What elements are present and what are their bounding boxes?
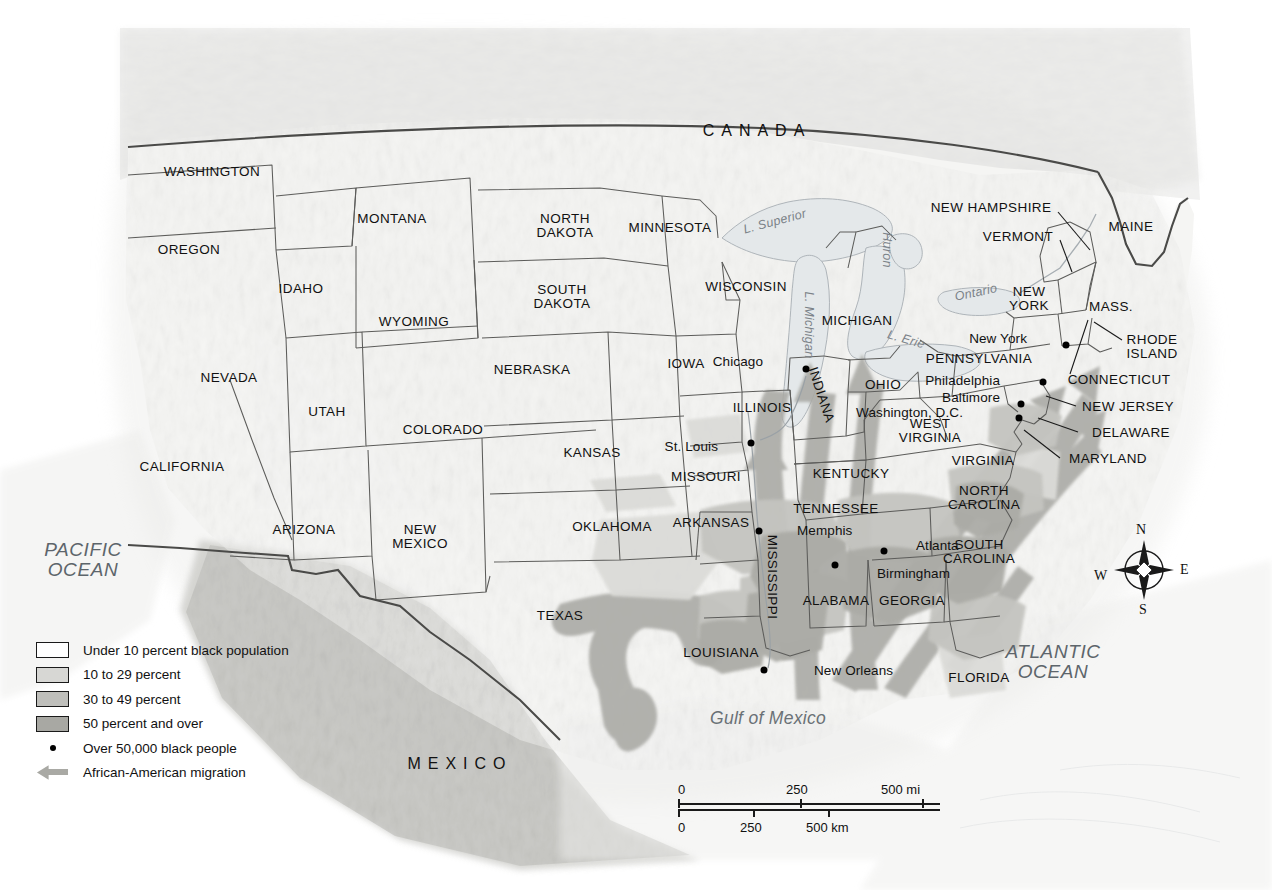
scale-mi-500: 500 mi [881,782,920,797]
scale-miles-line [678,799,940,809]
compass-rose: N E S W [1092,518,1200,622]
compass-label-north: N [1136,522,1146,537]
scale-km-250: 250 [740,820,762,835]
scale-bar: 0 250 500 mi 0 250 500 km [678,782,940,836]
legend-label: Under 10 percent black population [83,643,289,658]
map-figure: CANADA MEXICO PACIFIC OCEAN ATLANTIC OCE… [0,0,1272,890]
scale-miles-labels: 0 250 500 mi [678,782,940,799]
scale-km-0: 0 [678,820,685,835]
legend-row: African-American migration [36,761,336,786]
legend-swatch [36,642,69,658]
legend-swatch [36,691,69,707]
legend-row: Under 10 percent black population [36,638,336,663]
legend-row: Over 50,000 black people [36,736,336,761]
legend-label: 10 to 29 percent [83,667,181,682]
legend-arrow-symbol [36,764,69,782]
scale-mi-250: 250 [786,782,808,797]
legend-row: 30 to 49 percent [36,687,336,712]
compass-label-west: W [1094,568,1108,583]
legend-dot-symbol [36,740,69,756]
compass-label-south: S [1139,602,1147,617]
legend-label: 50 percent and over [83,716,203,731]
compass-label-east: E [1180,562,1189,577]
legend-row: 10 to 29 percent [36,663,336,688]
legend-label: African-American migration [83,765,246,780]
legend: Under 10 percent black population10 to 2… [36,638,336,785]
scale-km-500: 500 km [806,820,849,835]
legend-label: 30 to 49 percent [83,692,181,707]
scale-km-line [678,809,940,819]
legend-swatch [36,667,69,683]
scale-mi-0: 0 [678,782,685,797]
legend-label: Over 50,000 black people [83,741,237,756]
legend-swatch [36,716,69,732]
legend-row: 50 percent and over [36,712,336,737]
scale-km-labels: 0 250 500 km [678,820,940,836]
